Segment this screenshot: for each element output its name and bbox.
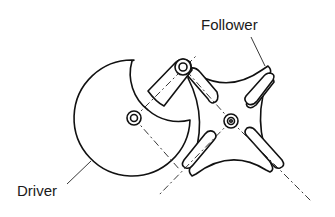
driver-label: Driver (17, 183, 57, 198)
follower-hub (224, 114, 238, 128)
follower-leader-line (251, 37, 265, 66)
driver-leader-line (67, 161, 91, 184)
driver-hub (127, 111, 141, 125)
follower-label: Follower (201, 17, 258, 32)
drive-pin (175, 59, 191, 75)
